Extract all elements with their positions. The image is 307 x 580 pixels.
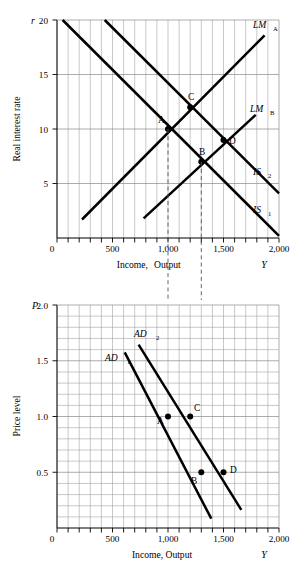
curve-label-ad2: AD 2 xyxy=(133,328,159,341)
svg-text:C: C xyxy=(194,403,200,413)
bottom-chart-ytick-1-5: 1.5 xyxy=(37,356,49,366)
bottom-chart-x-axis-variable: Y xyxy=(261,549,268,560)
top-chart-ytick-20: 20 xyxy=(39,16,49,26)
svg-text:B: B xyxy=(199,147,205,157)
curve-label-lma: LM A xyxy=(252,19,278,32)
curve-lmb xyxy=(144,115,256,219)
bottom-chart-y-axis-title: Price level xyxy=(11,395,22,436)
svg-text:C: C xyxy=(188,92,194,102)
top-chart-ytick-15: 15 xyxy=(39,70,49,80)
svg-text:1: 1 xyxy=(127,358,130,365)
bottom-chart-ytick-2-0: 2.0 xyxy=(37,301,49,311)
svg-text:A: A xyxy=(157,416,164,426)
bottom-chart-xtick-1500: 1,500 xyxy=(213,534,234,544)
top-chart-ytick-0: 0 xyxy=(50,244,55,254)
svg-text:LM: LM xyxy=(249,103,264,114)
bottom-chart-y-axis-variable: P xyxy=(31,300,38,311)
top-chart-ytick-5: 5 xyxy=(43,179,48,189)
svg-text:2: 2 xyxy=(156,334,159,341)
bottom-chart-ytick-0: 0 xyxy=(50,534,55,544)
bottom-chart-ytick-1-0: 1.0 xyxy=(37,412,49,422)
top-chart-is-lm: 20 15 10 5 0 500 1,000 1,500 2,000 r Rea… xyxy=(11,15,290,271)
point-a-top: A xyxy=(158,115,171,132)
bottom-chart-xtick-500: 500 xyxy=(106,534,120,544)
top-chart-x-axis-title-income: Income, xyxy=(117,259,148,270)
top-chart-y-axis-variable: r xyxy=(31,15,35,26)
svg-text:AD: AD xyxy=(133,328,147,339)
svg-text:LM: LM xyxy=(252,19,267,30)
top-chart-x-axis-variable: Y xyxy=(261,259,268,270)
svg-text:B: B xyxy=(191,476,197,486)
bottom-chart-xtick-2000: 2,000 xyxy=(269,534,290,544)
curve-label-is1: IS 1 xyxy=(252,204,271,217)
svg-text:B: B xyxy=(270,109,275,116)
bottom-chart-y-ticks xyxy=(53,305,58,472)
point-d-bottom: D xyxy=(221,465,238,475)
is-lm-ad-figure-svg: 20 15 10 5 0 500 1,000 1,500 2,000 r Rea… xyxy=(0,0,307,580)
top-chart-y-axis-title: Real interest rate xyxy=(11,97,22,162)
svg-text:1: 1 xyxy=(268,210,271,217)
top-chart-xtick-2000: 2,000 xyxy=(269,244,290,254)
top-chart-xtick-1500: 1,500 xyxy=(213,244,234,254)
svg-text:AD: AD xyxy=(104,352,118,363)
svg-text:D: D xyxy=(229,136,236,146)
bottom-chart-ytick-0-5: 0.5 xyxy=(37,468,49,478)
bottom-chart-ad: 2.0 1.5 1.0 0.5 0 500 1,000 1,500 2,000 … xyxy=(11,300,290,561)
top-chart-ytick-10: 10 xyxy=(39,125,49,135)
svg-text:IS: IS xyxy=(252,166,261,177)
top-chart-y-ticks xyxy=(53,20,58,184)
top-chart-x-axis-title-output: Output xyxy=(154,259,181,270)
svg-text:A: A xyxy=(273,25,278,32)
svg-text:2: 2 xyxy=(268,172,271,179)
bottom-chart-x-ticks xyxy=(57,528,279,533)
curve-label-lmb: LM B xyxy=(249,103,275,116)
bottom-chart-x-axis-title: Income, Output xyxy=(132,549,193,560)
point-a-bottom: A xyxy=(157,414,171,427)
point-b-top: B xyxy=(198,147,205,165)
top-chart-xtick-500: 500 xyxy=(106,244,120,254)
svg-text:D: D xyxy=(230,465,237,475)
economics-figure: 20 15 10 5 0 500 1,000 1,500 2,000 r Rea… xyxy=(0,0,307,580)
bottom-chart-xtick-1000: 1,000 xyxy=(158,534,179,544)
svg-text:A: A xyxy=(158,115,165,125)
svg-text:IS: IS xyxy=(252,204,261,215)
